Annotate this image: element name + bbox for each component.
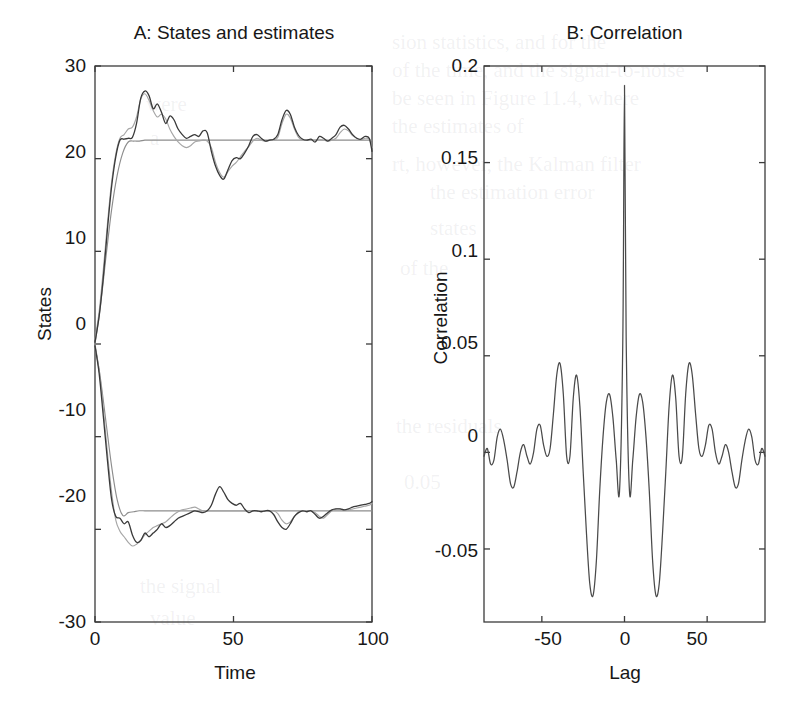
panel-b-tickmarks [484,66,765,622]
panel-b-x-tick-n50: -50 [523,628,573,650]
panel-b-y-tick-015: 0.15 [405,147,478,169]
panel-a-axes-group [95,66,372,622]
panel-b-series-group [484,85,765,596]
panel-b-plot [0,0,790,707]
panel-a-title: A: States and estimates [95,22,373,44]
panel-b-y-tick-0: 0 [405,425,478,447]
panel-b-axes-group [484,66,765,622]
series-state-1-true [95,140,372,344]
bleed-text: be seen in Figure 11.4, where [392,86,639,111]
panel-b-y-tick-020: 0.2 [405,55,478,77]
panel-a-y-tick-20: 20 [20,141,86,163]
series-state-2-estimate [95,348,372,546]
bleed-text: a [150,126,159,151]
panel-a-series-group [95,91,372,546]
panel-b-title: B: Correlation [484,22,765,44]
panel-b-frame [484,66,765,622]
series-residual-autocorrelation [484,85,765,596]
bleed-text: value [150,606,195,631]
panel-a-x-axis-label: Time [175,662,295,684]
figure-container: sion statistics, and for theof the time,… [0,0,790,707]
panel-b-y-tick-010: 0.1 [405,240,478,262]
series-state-1-estimate [95,94,372,340]
panel-a-y-tick-n20: -20 [20,485,86,507]
panel-a-frame [95,66,372,622]
bleed-text: 0.05 [404,470,441,495]
panel-b-x-tick-0: 0 [605,628,645,650]
panel-a-x-tick-50: 50 [213,628,253,650]
series-state-2-true [95,344,372,516]
panel-a-tickmarks [95,66,372,622]
panel-a-y-tick-10: 10 [20,227,86,249]
panel-b-x-tick-50: 50 [672,628,722,650]
panel-a-plot [0,0,790,707]
bleed-text: were [146,92,187,117]
bleed-text: the signal [140,574,221,599]
bleed-text: the estimates of [392,114,524,139]
panel-a-x-tick-0: 0 [75,628,115,650]
panel-b-x-axis-label: Lag [565,662,685,684]
panel-a-x-tick-100: 100 [348,628,398,650]
bleed-text: the estimation error [430,180,594,205]
series-state-2-measured [95,346,372,543]
panel-b-y-tick-n005: -0.05 [405,540,478,562]
panel-a-y-tick-30: 30 [20,55,86,77]
panel-a-y-tick-0: 0 [20,313,86,335]
series-state-1-measured [95,91,372,342]
panel-b-y-tick-005: 0.05 [405,332,478,354]
panel-a-y-tick-n10: -10 [20,399,86,421]
